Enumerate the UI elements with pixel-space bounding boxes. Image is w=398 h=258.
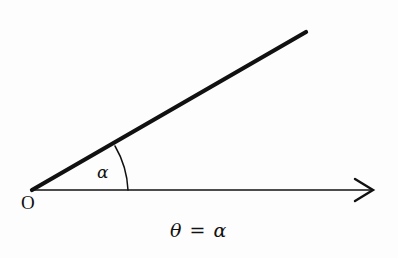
angle-arc <box>115 146 128 190</box>
caption-equation: θ = α <box>170 221 227 240</box>
terminal-side-ray <box>32 32 306 190</box>
origin-label: O <box>21 193 35 212</box>
angle-diagram-figure: O α θ = α <box>0 0 398 258</box>
alpha-angle-label: α <box>97 164 108 181</box>
